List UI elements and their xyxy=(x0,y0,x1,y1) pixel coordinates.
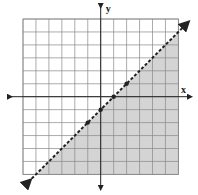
line-point xyxy=(99,107,103,111)
line-point xyxy=(124,82,128,86)
x-axis-label: x xyxy=(181,84,186,95)
coordinate-plane: x y xyxy=(0,0,198,195)
line-point xyxy=(86,120,90,124)
line-point xyxy=(111,95,115,99)
y-axis-label: y xyxy=(106,3,111,14)
